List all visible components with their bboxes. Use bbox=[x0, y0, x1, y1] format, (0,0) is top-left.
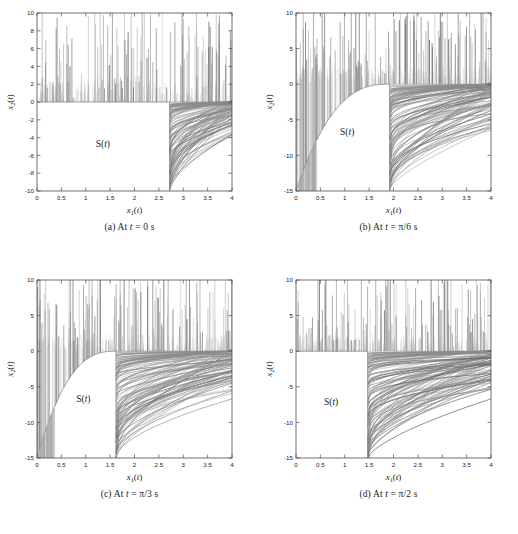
x-tick-label: 0.5 bbox=[57, 461, 66, 468]
figure-four-panel-phase-plots: 00.511.522.533.54-10-8-6-4-20246810x1(t)… bbox=[0, 0, 518, 534]
caption-value: π/2 bbox=[399, 489, 412, 499]
caption-equals: = bbox=[388, 222, 399, 232]
y-tick-label: 6 bbox=[31, 45, 35, 52]
x-tick-label: 2 bbox=[133, 461, 137, 468]
y-tick-label: 10 bbox=[27, 9, 34, 16]
y-tick-label: 8 bbox=[31, 27, 35, 34]
region-label-S: S(t) bbox=[96, 139, 110, 150]
region-label-S: S(t) bbox=[324, 397, 338, 408]
x-tick-label: 1 bbox=[343, 194, 347, 201]
x-tick-label: 3.5 bbox=[462, 194, 471, 201]
x-tick-label: 1 bbox=[84, 461, 88, 468]
y-axis-label: x2(t) bbox=[5, 361, 16, 378]
x-tick-label: 0.5 bbox=[57, 194, 66, 201]
y-axis-label: x2(t) bbox=[264, 94, 275, 111]
caption-equals: = bbox=[388, 489, 399, 499]
x-tick-label: 2.5 bbox=[414, 461, 423, 468]
panel-d: 00.511.522.533.54-15-10-50510x1(t)x2(t)S… bbox=[259, 267, 518, 534]
y-tick-label: -6 bbox=[28, 152, 34, 159]
x-tick-label: 0 bbox=[35, 194, 39, 201]
x-tick-label: 1.5 bbox=[365, 194, 374, 201]
y-tick-label: -10 bbox=[25, 187, 35, 194]
x-tick-label: 2.5 bbox=[414, 194, 423, 201]
caption-prefix: (d) At bbox=[359, 489, 385, 499]
x-tick-label: 0.5 bbox=[316, 194, 325, 201]
y-tick-label: -8 bbox=[28, 169, 34, 176]
y-tick-label: 2 bbox=[31, 80, 35, 87]
x-tick-label: 2.5 bbox=[155, 461, 164, 468]
region-label-S: S(t) bbox=[340, 127, 354, 138]
x-tick-label: 3.5 bbox=[203, 461, 212, 468]
x-tick-label: 3 bbox=[182, 194, 186, 201]
plot-area-a: 00.511.522.533.54-10-8-6-4-20246810x1(t)… bbox=[0, 0, 259, 215]
x-tick-label: 1.5 bbox=[106, 461, 115, 468]
panel-a: 00.511.522.533.54-10-8-6-4-20246810x1(t)… bbox=[0, 0, 259, 267]
caption-unit: s bbox=[152, 489, 158, 499]
plot-svg-c: 00.511.522.533.54-15-10-50510x1(t)x2(t)S… bbox=[0, 267, 259, 482]
caption-value: π/3 bbox=[139, 489, 152, 499]
x-tick-label: 0 bbox=[35, 461, 39, 468]
plot-svg-b: 00.511.522.533.54-15-10-50510x1(t)x2(t)S… bbox=[259, 0, 518, 215]
x-tick-label: 2 bbox=[392, 194, 396, 201]
x-tick-label: 4 bbox=[230, 461, 234, 468]
y-tick-label: 5 bbox=[290, 45, 294, 52]
x-tick-label: 3.5 bbox=[462, 461, 471, 468]
y-tick-label: -5 bbox=[287, 383, 293, 390]
y-tick-label: -2 bbox=[28, 116, 34, 123]
plot-svg-a: 00.511.522.533.54-10-8-6-4-20246810x1(t)… bbox=[0, 0, 259, 215]
x-tick-label: 4 bbox=[489, 194, 493, 201]
y-tick-label: 5 bbox=[31, 312, 35, 319]
y-tick-label: 4 bbox=[31, 63, 35, 70]
x-tick-label: 3.5 bbox=[203, 194, 212, 201]
x-tick-label: 0 bbox=[294, 461, 298, 468]
x-tick-label: 1.5 bbox=[365, 461, 374, 468]
y-axis-label: x2(t) bbox=[5, 94, 16, 111]
caption-unit: s bbox=[411, 489, 417, 499]
axes-frame: 00.511.522.533.54-10-8-6-4-20246810x1(t)… bbox=[5, 9, 234, 215]
y-tick-label: -15 bbox=[284, 187, 294, 194]
y-tick-label: 0 bbox=[31, 98, 35, 105]
x-tick-label: 1 bbox=[84, 194, 88, 201]
y-tick-label: -10 bbox=[284, 152, 294, 159]
caption-prefix: (a) At bbox=[105, 222, 130, 232]
y-tick-label: -10 bbox=[25, 419, 35, 426]
x-tick-label: 2 bbox=[133, 194, 137, 201]
y-tick-label: 0 bbox=[290, 80, 294, 87]
x-tick-label: 3 bbox=[441, 194, 445, 201]
x-tick-label: 3 bbox=[441, 461, 445, 468]
y-tick-label: -5 bbox=[287, 116, 293, 123]
plot-area-d: 00.511.522.533.54-15-10-50510x1(t)x2(t)S… bbox=[259, 267, 518, 482]
y-tick-label: -10 bbox=[284, 419, 294, 426]
x-axis-label: x1(t) bbox=[385, 205, 402, 215]
x-tick-label: 4 bbox=[489, 461, 493, 468]
caption-a: (a) At t = 0 s bbox=[0, 222, 259, 232]
trajectory-group bbox=[37, 280, 232, 458]
y-tick-label: 0 bbox=[290, 347, 294, 354]
y-tick-label: 10 bbox=[286, 276, 293, 283]
x-tick-label: 1 bbox=[343, 461, 347, 468]
x-tick-label: 4 bbox=[230, 194, 234, 201]
plot-area-c: 00.511.522.533.54-15-10-50510x1(t)x2(t)S… bbox=[0, 267, 259, 482]
x-tick-label: 2.5 bbox=[155, 194, 164, 201]
panel-b: 00.511.522.533.54-15-10-50510x1(t)x2(t)S… bbox=[259, 0, 518, 267]
plot-svg-d: 00.511.522.533.54-15-10-50510x1(t)x2(t)S… bbox=[259, 267, 518, 482]
x-axis-label: x1(t) bbox=[385, 472, 402, 482]
caption-unit: s bbox=[411, 222, 417, 232]
x-axis-label: x1(t) bbox=[126, 205, 143, 215]
panel-c: 00.511.522.533.54-15-10-50510x1(t)x2(t)S… bbox=[0, 267, 259, 534]
region-label-S: S(t) bbox=[76, 394, 90, 405]
y-axis-label: x2(t) bbox=[264, 361, 275, 378]
y-tick-label: -15 bbox=[25, 454, 35, 461]
caption-c: (c) At t = π/3 s bbox=[0, 489, 259, 499]
plot-area-b: 00.511.522.533.54-15-10-50510x1(t)x2(t)S… bbox=[259, 0, 518, 215]
x-tick-label: 3 bbox=[182, 461, 186, 468]
trajectory-group bbox=[296, 13, 491, 191]
y-tick-label: 5 bbox=[290, 312, 294, 319]
caption-prefix: (c) At bbox=[101, 489, 126, 499]
caption-value: π/6 bbox=[399, 222, 412, 232]
caption-b: (b) At t = π/6 s bbox=[259, 222, 518, 232]
y-tick-label: 10 bbox=[27, 276, 34, 283]
x-tick-label: 1.5 bbox=[106, 194, 115, 201]
y-tick-label: -5 bbox=[28, 383, 34, 390]
trajectory-group bbox=[296, 280, 491, 458]
